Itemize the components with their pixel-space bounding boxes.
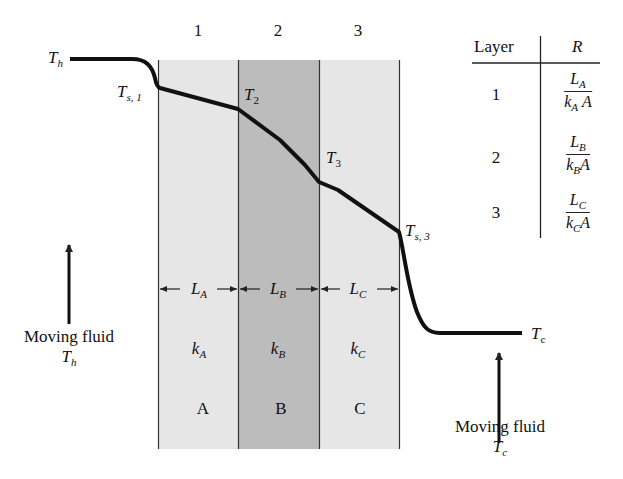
diagram-canvas (0, 0, 623, 479)
layer-a-slab (158, 60, 238, 449)
label-material-b: B (275, 400, 286, 417)
label-conductivity-b: kB (271, 340, 285, 360)
table-row-3-layer: 3 (492, 204, 501, 221)
layer-number-1: 1 (194, 22, 203, 39)
label-t-surface-3: Ts, 3 (405, 222, 430, 242)
layer-number-2: 2 (274, 22, 283, 39)
table-header-layer: Layer (474, 38, 514, 55)
label-t-2: T2 (244, 86, 259, 106)
left-fluid-temp: Th (62, 348, 77, 368)
table-row-3-resistance: LC kCA (566, 191, 590, 234)
right-fluid-temp: Tc (493, 438, 507, 458)
table-row-1-layer: 1 (492, 86, 501, 103)
label-material-c: C (354, 400, 365, 417)
label-t-3: T3 (326, 149, 341, 169)
label-t-hot: Th (48, 49, 63, 69)
right-fluid-label: Moving fluid (455, 418, 545, 435)
label-conductivity-a: kA (192, 340, 206, 360)
table-header-r: R (572, 38, 582, 55)
label-thickness-b: LB (268, 280, 288, 300)
left-fluid-label: Moving fluid (24, 328, 114, 345)
label-thickness-a: LA (189, 280, 209, 300)
table-row-2-layer: 2 (492, 149, 501, 166)
layer-number-3: 3 (354, 22, 363, 39)
label-t-surface-1: Ts, 1 (117, 83, 142, 103)
table-row-1-resistance: LA kA A (564, 70, 592, 113)
table-row-2-resistance: LB kBA (566, 133, 590, 176)
layer-c-slab (319, 60, 399, 449)
label-t-cold: Tc (531, 325, 545, 345)
label-thickness-c: LC (348, 280, 369, 300)
label-material-a: A (197, 400, 209, 417)
label-conductivity-c: kC (351, 340, 366, 360)
